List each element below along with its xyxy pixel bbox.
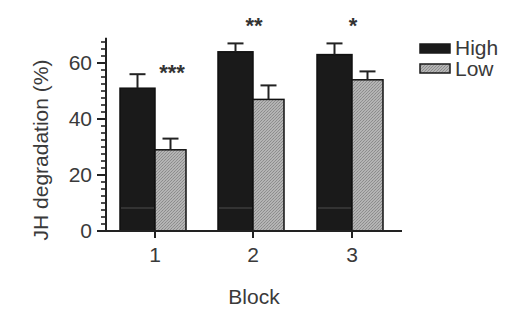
y-tick-label: 40 <box>69 107 92 130</box>
legend-item-high: High <box>420 36 498 59</box>
legend-label-low: Low <box>455 57 494 80</box>
x-tick-label: 3 <box>346 243 358 266</box>
legend-item-low: Low <box>420 57 494 80</box>
y-axis: 0204060 <box>69 38 106 242</box>
legend-swatch-low <box>420 64 450 73</box>
bar-high-block-2 <box>218 52 253 231</box>
bar-high-block-1 <box>120 88 155 231</box>
bar-low-block-1 <box>155 150 186 231</box>
bar-low-block-3 <box>352 80 383 231</box>
bar-chart: ****** 0204060 123 JH degradation (%) Bl… <box>0 0 514 320</box>
x-axis-title: Block <box>228 285 280 308</box>
x-tick-label: 2 <box>247 243 259 266</box>
y-axis-title: JH degradation (%) <box>29 60 52 241</box>
y-tick-label: 0 <box>80 219 92 242</box>
y-tick-label: 20 <box>69 163 92 186</box>
legend-label-high: High <box>455 36 498 59</box>
y-tick-label: 60 <box>69 51 92 74</box>
x-axis: 123 <box>105 231 402 266</box>
bar-low-block-2 <box>253 99 284 231</box>
legend-swatch-high <box>420 44 450 53</box>
significance-marker-block-2: ** <box>245 13 263 38</box>
x-tick-label: 1 <box>149 243 161 266</box>
legend: High Low <box>420 36 498 80</box>
bar-high-block-3 <box>317 55 352 231</box>
significance-marker-block-3: * <box>349 13 358 38</box>
significance-marker-block-1: *** <box>159 60 185 85</box>
